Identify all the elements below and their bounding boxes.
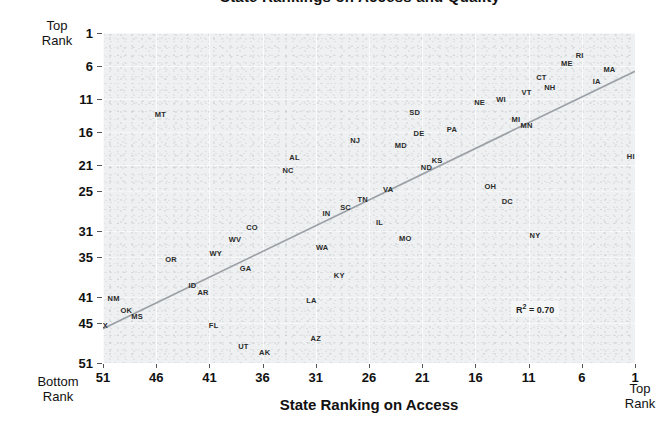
data-point-mt: MT	[155, 109, 166, 118]
data-point-or: OR	[165, 254, 177, 263]
data-point-va: VA	[383, 184, 393, 193]
plot-area: MTALNCNJMDDESDPANEWIVTNHCTMERIMAIAMIMNKS…	[103, 33, 635, 363]
y-tick-label: 41	[59, 290, 93, 305]
y-tick-label: 11	[59, 92, 93, 107]
x-tick-label: 11	[509, 370, 549, 385]
data-point-sc: SC	[340, 202, 351, 211]
data-point-il: IL	[376, 217, 383, 226]
data-point-me: ME	[561, 59, 573, 68]
y-tick-mark	[97, 231, 102, 232]
x-tick-label: 26	[349, 370, 389, 385]
data-point-ga: GA	[240, 263, 252, 272]
data-point-la: LA	[306, 295, 316, 304]
x-tick-mark	[103, 364, 104, 368]
chart-title: State Rankings on Access and Quality	[150, 0, 570, 5]
data-point-al: AL	[289, 153, 299, 162]
x-tick-label: 16	[455, 370, 495, 385]
y-tick-label: 45	[59, 316, 93, 331]
x-tick-mark	[156, 364, 157, 368]
x-tick-mark	[422, 364, 423, 368]
data-point-ma: MA	[603, 64, 615, 73]
data-point-pa: PA	[447, 125, 457, 134]
x-tick-label: 21	[402, 370, 442, 385]
data-point-wy: WY	[210, 249, 222, 258]
data-point-hi: HI	[627, 151, 635, 160]
data-point-id: ID	[188, 281, 196, 290]
data-point-ut: UT	[238, 341, 248, 350]
data-point-ks: KS	[432, 156, 443, 165]
data-point-co: CO	[246, 223, 258, 232]
x-tick-mark	[209, 364, 210, 368]
y-tick-label: 25	[59, 184, 93, 199]
x-tick-label: 51	[83, 370, 123, 385]
x-axis-title: State Ranking on Access	[103, 396, 635, 413]
y-tick-label: 35	[59, 250, 93, 265]
data-point-ms: MS	[131, 312, 143, 321]
data-point-ky: KY	[334, 270, 345, 279]
data-point-ct: CT	[536, 72, 546, 81]
data-point-nc: NC	[283, 166, 294, 175]
r-squared-value: 0.70	[537, 305, 555, 315]
data-point-nh: NH	[544, 83, 555, 92]
y-tick-label: 16	[59, 125, 93, 140]
data-point-ny: NY	[530, 230, 541, 239]
data-point-ar: AR	[197, 287, 208, 296]
data-point-ia: IA	[593, 77, 601, 86]
data-point-md: MD	[395, 141, 407, 150]
data-point-wa: WA	[316, 242, 328, 251]
x-tick-label: 36	[243, 370, 283, 385]
data-point-ne: NE	[474, 98, 485, 107]
y-tick-mark	[97, 191, 102, 192]
y-tick-mark	[97, 257, 102, 258]
y-tick-label: 6	[59, 59, 93, 74]
x-tick-label: 6	[562, 370, 602, 385]
x-tick-label: 41	[189, 370, 229, 385]
data-point-in: IN	[322, 209, 330, 218]
x-tick-mark	[529, 364, 530, 368]
x-tick-mark	[582, 364, 583, 368]
data-point-mo: MO	[399, 233, 411, 242]
data-point-mn: MN	[520, 121, 532, 130]
data-point-tx: TX	[103, 320, 108, 329]
data-point-nd: ND	[421, 162, 432, 171]
data-point-ca: CA	[165, 361, 176, 363]
y-tick-label: 21	[59, 158, 93, 173]
x-tick-mark	[263, 364, 264, 368]
y-tick-mark	[97, 132, 102, 133]
data-point-de: DE	[414, 129, 425, 138]
data-point-tn: TN	[357, 195, 367, 204]
data-point-sd: SD	[409, 108, 420, 117]
y-tick-label: 1	[59, 26, 93, 41]
data-point-az: AZ	[311, 333, 321, 342]
data-point-oh: OH	[484, 182, 496, 191]
y-tick-label: 51	[59, 356, 93, 371]
y-tick-mark	[97, 363, 102, 364]
data-point-fl: FL	[209, 320, 219, 329]
x-tick-mark	[316, 364, 317, 368]
x-tick-label: 46	[136, 370, 176, 385]
data-point-vt: VT	[521, 88, 531, 97]
y-tick-mark	[97, 99, 102, 100]
r-squared-annotation: R2 = 0.70	[511, 301, 559, 317]
x-tick-mark	[635, 364, 636, 368]
y-tick-mark	[97, 33, 102, 34]
data-point-nj: NJ	[350, 135, 360, 144]
y-tick-mark	[97, 323, 102, 324]
data-point-ri: RI	[576, 50, 584, 59]
y-tick-mark	[97, 165, 102, 166]
data-point-wi: WI	[496, 95, 506, 104]
y-tick-label: 31	[59, 224, 93, 239]
data-point-wv: WV	[229, 234, 241, 243]
x-tick-label: 1	[615, 370, 655, 385]
x-tick-mark	[369, 364, 370, 368]
x-tick-mark	[475, 364, 476, 368]
x-tick-label: 31	[296, 370, 336, 385]
y-tick-mark	[97, 297, 102, 298]
y-tick-mark	[97, 66, 102, 67]
data-point-nm: NM	[108, 294, 120, 303]
scatter-chart: State Rankings on Access and Quality Top…	[0, 0, 668, 444]
data-point-dc: DC	[502, 196, 513, 205]
data-point-mi: MI	[511, 114, 520, 123]
data-point-ak: AK	[259, 348, 270, 357]
